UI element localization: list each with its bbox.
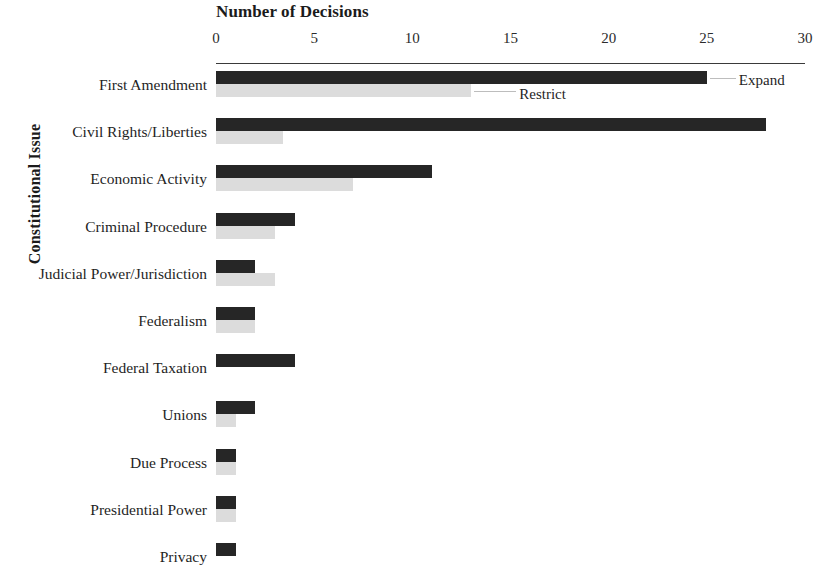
bar-expand <box>216 260 255 273</box>
category-group: Federalism <box>0 307 817 333</box>
bar-restrict <box>216 462 236 475</box>
bar-restrict <box>216 509 236 522</box>
category-group: First Amendment <box>0 71 817 97</box>
category-group: Privacy <box>0 543 817 567</box>
category-label: Privacy <box>0 548 207 566</box>
category-label: First Amendment <box>0 76 207 94</box>
category-label: Presidential Power <box>0 501 207 519</box>
bar-restrict <box>216 414 236 427</box>
category-group: Unions <box>0 401 817 427</box>
bar-expand <box>216 307 255 320</box>
category-group: Criminal Procedure <box>0 213 817 239</box>
plot-area: First AmendmentCivil Rights/LibertiesEco… <box>0 0 817 567</box>
category-group: Federal Taxation <box>0 354 817 380</box>
category-label: Federal Taxation <box>0 359 207 377</box>
bar-expand <box>216 71 707 84</box>
bar-expand <box>216 401 255 414</box>
bar-chart: Number of Decisions 051015202530 Constit… <box>0 0 817 567</box>
category-group: Economic Activity <box>0 165 817 191</box>
bar-expand <box>216 165 432 178</box>
category-label: Civil Rights/Liberties <box>0 123 207 141</box>
bar-expand <box>216 118 766 131</box>
category-group: Judicial Power/Jurisdiction <box>0 260 817 286</box>
restrict-callout-leader <box>474 91 516 92</box>
category-label: Economic Activity <box>0 170 207 188</box>
category-label: Judicial Power/Jurisdiction <box>0 265 207 283</box>
expand-series-label: Expand <box>739 72 785 89</box>
bar-restrict <box>216 226 275 239</box>
bar-expand <box>216 354 295 367</box>
category-label: Unions <box>0 406 207 424</box>
category-group: Due Process <box>0 449 817 475</box>
expand-callout-leader <box>710 78 736 79</box>
bar-restrict <box>216 178 353 191</box>
category-label: Due Process <box>0 454 207 472</box>
bar-expand <box>216 449 236 462</box>
bar-expand <box>216 496 236 509</box>
category-label: Criminal Procedure <box>0 218 207 236</box>
bar-restrict <box>216 84 471 97</box>
bar-restrict <box>216 131 283 144</box>
restrict-series-label: Restrict <box>519 86 566 103</box>
category-group: Presidential Power <box>0 496 817 522</box>
category-group: Civil Rights/Liberties <box>0 118 817 144</box>
category-label: Federalism <box>0 312 207 330</box>
bar-restrict <box>216 320 255 333</box>
bar-expand <box>216 213 295 226</box>
bar-expand <box>216 543 236 556</box>
bar-restrict <box>216 273 275 286</box>
